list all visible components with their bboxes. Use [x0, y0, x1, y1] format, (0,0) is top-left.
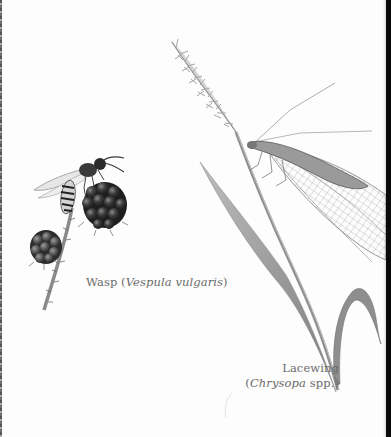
lacewing-illustration	[170, 39, 386, 392]
blackberry-large	[78, 182, 128, 236]
grass-leaf-curled	[334, 288, 381, 385]
wasp-close-paren: )	[223, 275, 228, 289]
wasp-scientific-name: Vespula vulgaris	[126, 275, 223, 289]
lacewing-common-name: Lacewing	[236, 361, 339, 376]
caption-lacewing: Lacewing (Chrysopa spp.)	[236, 361, 339, 391]
grass-ear	[170, 39, 236, 132]
illustration-plate: Wasp (Vespula vulgaris) Lacewing (Chryso…	[0, 0, 391, 437]
lacewing-suffix: spp.)	[306, 376, 339, 390]
page-edge-right	[386, 0, 391, 437]
lacewing-scientific-name: Chrysopa	[250, 376, 306, 390]
page-edge-left	[0, 0, 2, 437]
caption-wasp: Wasp (Vespula vulgaris)	[86, 275, 228, 290]
wasp-common-name: Wasp	[86, 275, 117, 289]
